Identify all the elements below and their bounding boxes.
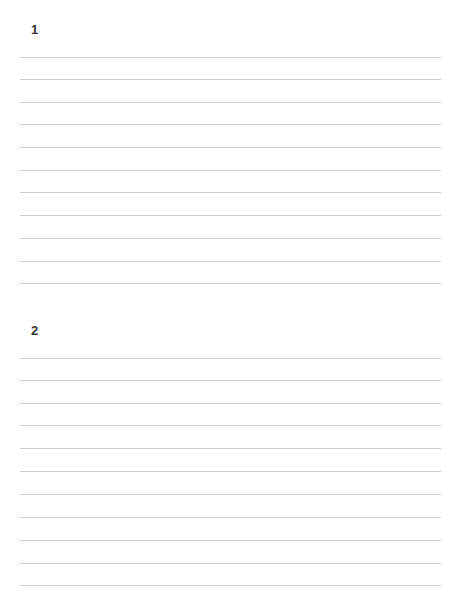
- writing-line: [20, 494, 441, 495]
- writing-line: [20, 585, 441, 586]
- writing-line: [20, 170, 441, 171]
- writing-line: [20, 102, 441, 103]
- section-number: 2: [31, 324, 38, 337]
- writing-line: [20, 192, 441, 193]
- writing-line: [20, 517, 441, 518]
- writing-line: [20, 79, 441, 80]
- writing-line: [20, 124, 441, 125]
- writing-line: [20, 57, 441, 58]
- writing-line: [20, 540, 441, 541]
- writing-line: [20, 238, 441, 239]
- writing-line: [20, 425, 441, 426]
- writing-line: [20, 380, 441, 381]
- writing-line: [20, 215, 441, 216]
- writing-line: [20, 403, 441, 404]
- writing-line: [20, 283, 441, 284]
- writing-line: [20, 563, 441, 564]
- writing-line: [20, 261, 441, 262]
- section-number: 1: [31, 23, 38, 36]
- writing-line: [20, 147, 441, 148]
- writing-line: [20, 448, 441, 449]
- writing-line: [20, 471, 441, 472]
- writing-line: [20, 358, 441, 359]
